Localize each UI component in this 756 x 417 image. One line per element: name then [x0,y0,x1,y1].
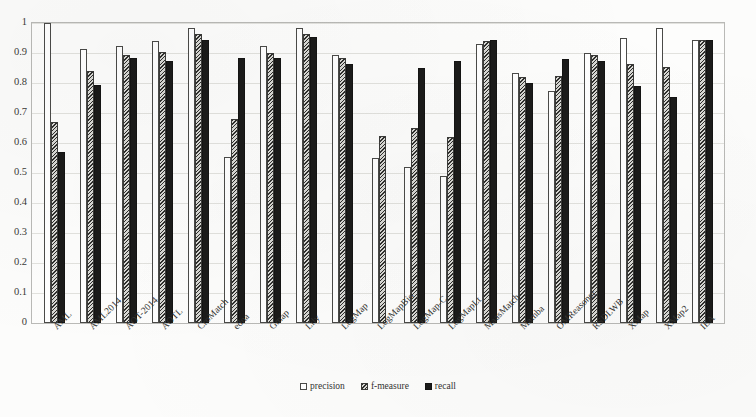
bar-precision [620,38,627,323]
x-tick-cell: LogMapBio [360,322,396,380]
bar-recall [274,58,281,324]
x-tick-cell: LogMap-C [396,322,432,380]
x-tick-cell: edna [216,322,252,380]
bar-group [217,23,253,323]
legend-swatch-recall [425,383,432,390]
bar-recall [346,64,353,324]
y-tick-label: 0.8 [14,77,27,88]
x-tick-cell: AOTL [144,322,180,380]
y-axis: 10.90.80.70.60.50.40.30.20.10 [0,22,31,322]
bar-f-measure [447,137,454,323]
bar-group [397,23,433,323]
y-tick-label: 0.6 [14,137,27,148]
y-tick-label: 0.4 [14,197,27,208]
bar-precision [116,46,123,324]
plot-area [31,22,725,324]
chart-legend: precisionf-measurerecall [0,381,756,391]
x-tick-cell: IEA [683,322,719,380]
bar-f-measure [159,52,166,324]
x-tick-cell: AOT-2014 [108,322,144,380]
y-tick-label: 0.1 [14,287,27,298]
bar-group [181,23,217,323]
x-tick-cell: AML2014 [72,322,108,380]
bar-f-measure [303,34,310,324]
legend-item-recall: recall [425,381,456,391]
bar-recall [166,61,173,324]
bar-precision [656,28,663,324]
bar-precision [476,44,483,323]
legend-swatch-precision [300,383,307,390]
bar-group [612,23,648,323]
bar-group [73,23,109,323]
bar-recall [490,40,497,324]
bar-precision [692,40,699,324]
bar-f-measure [663,67,670,324]
bar-precision [188,28,195,324]
legend-swatch-f-measure [361,383,368,390]
x-tick-cell: MaasMatch [467,322,503,380]
bar-recall [454,61,461,324]
bar-recall [562,59,569,323]
bar-recall [418,68,425,323]
bar-recall [634,86,641,323]
x-tick-cell: LogMapLt [431,322,467,380]
bar-f-measure [123,55,130,324]
x-tick-cell: XMap2 [647,322,683,380]
bar-group [504,23,540,323]
y-tick-label: 0.3 [14,227,27,238]
bar-f-measure [379,136,386,324]
bar-f-measure [555,76,562,324]
bar-group [145,23,181,323]
x-tick-cell: LogMap [324,322,360,380]
bar-f-measure [231,119,238,323]
chart-page: 10.90.80.70.60.50.40.30.20.10 AMLAML2014… [0,0,756,417]
bar-group [37,23,73,323]
bar-precision [296,28,303,324]
bar-group [684,23,720,323]
bar-precision [332,55,339,324]
bar-recall [94,85,101,324]
y-tick-label: 0.9 [14,47,27,58]
bar-recall [238,58,245,324]
bar-group [325,23,361,323]
bar-f-measure [699,40,706,324]
legend-item-f-measure: f-measure [361,381,409,391]
bar-precision [372,158,379,323]
bar-recall [202,40,209,324]
bar-recall [598,61,605,324]
bar-precision [44,23,51,323]
legend-label: precision [310,381,345,391]
y-tick-label: 0.2 [14,257,27,268]
bar-f-measure [339,58,346,324]
bar-f-measure [591,55,598,324]
bar-precision [80,49,87,324]
bar-f-measure [87,71,94,323]
y-tick-label: 0.7 [14,107,27,118]
x-tick-cell: AML [36,322,72,380]
bar-group [540,23,576,323]
bar-f-measure [51,122,58,323]
bar-recall [130,58,137,324]
bar-recall [670,97,677,324]
x-tick-cell: RSDLWB [575,322,611,380]
x-tick-cell: Mamba [503,322,539,380]
x-tick-cell: Lily [288,322,324,380]
legend-item-precision: precision [300,381,345,391]
bar-precision [584,53,591,323]
y-tick-label: 0 [22,317,27,328]
y-tick-label: 1 [22,17,27,28]
x-tick-cell: OMReasoner [539,322,575,380]
bar-group [253,23,289,323]
bar-group [289,23,325,323]
x-tick-cell: XMap [611,322,647,380]
bar-recall [58,152,65,323]
bar-group [468,23,504,323]
bar-group [648,23,684,323]
bar-precision [260,46,267,324]
bar-groups [32,23,724,323]
bar-group [109,23,145,323]
x-tick-cell: CroMatch [180,322,216,380]
bar-group [361,23,397,323]
bar-f-measure [519,77,526,323]
bar-group [432,23,468,323]
